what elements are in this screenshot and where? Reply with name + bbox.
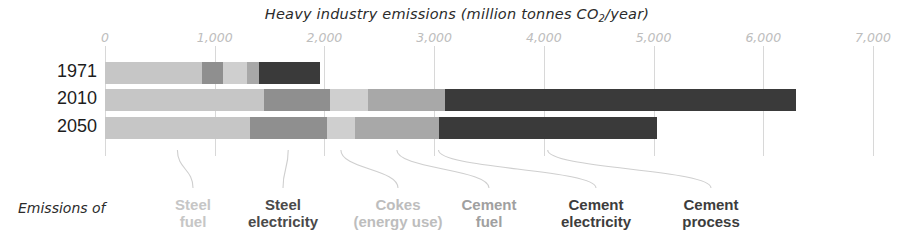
legend-leader-lines: [0, 0, 914, 251]
legend: Emissions of Steel fuelSteel electricity…: [0, 0, 914, 251]
chart-container: Heavy industry emissions (million tonnes…: [0, 0, 914, 251]
